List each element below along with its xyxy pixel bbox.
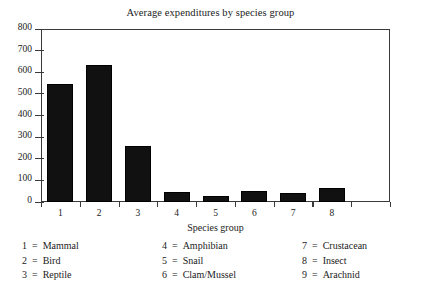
bar-chart-figure: Average expenditures by species group 01… [0,0,421,293]
y-axis-tick-mark [35,29,44,30]
chart-title: Average expenditures by species group [0,7,421,18]
y-axis-tick-label: 500 [18,87,32,97]
legend-item: 7=Crustacean [298,240,367,255]
legend-item-equals: = [307,269,323,280]
legend-item-label: Clam/Mussel [183,269,236,280]
legend-item: 6=Clam/Mussel [158,269,236,284]
x-axis-tick-label: 5 [196,208,236,218]
legend-item-equals: = [27,269,43,280]
legend-item-label: Reptile [43,269,72,280]
legend-column-3: 7=Crustacean8=Insect9=Arachnid [298,240,367,284]
legend-item-label: Crustacean [323,240,367,251]
x-axis-tick-label: 2 [79,208,119,218]
y-axis-tick-label: 700 [18,44,32,54]
legend-item-key: 9 [298,269,307,280]
x-axis-tick-mark [119,202,120,207]
legend-item-equals: = [27,255,43,266]
legend-item-key: 2 [18,255,27,266]
legend-item-label: Arachnid [323,269,360,280]
bar [319,188,345,202]
legend-item-label: Snail [183,255,204,266]
y-axis-tick-label: 200 [18,152,32,162]
x-axis-tick-label: 3 [118,208,158,218]
legend-item: 1=Mammal [18,240,79,255]
y-axis-tick-label: 800 [18,22,32,32]
legend-item-equals: = [167,255,183,266]
legend-item: 9=Arachnid [298,269,367,284]
y-axis-tick-label: 100 [18,173,32,183]
legend-item-equals: = [167,269,183,280]
bar [125,146,151,202]
y-axis-tick-mark [35,93,44,94]
legend-item-equals: = [307,255,323,266]
legend-item-key: 8 [298,255,307,266]
legend-item-key: 1 [18,240,27,251]
x-axis-tick-label: 7 [273,208,313,218]
legend-item: 5=Snail [158,255,236,270]
legend-item: 3=Reptile [18,269,79,284]
legend-item-equals: = [167,240,183,251]
x-axis-tick-mark [274,202,275,207]
legend-item-key: 7 [298,240,307,251]
legend-item-label: Amphibian [183,240,228,251]
y-axis-tick-mark [35,115,44,116]
bar [203,196,229,202]
legend-item-key: 5 [158,255,167,266]
y-axis-tick-label: 400 [18,109,32,119]
chart-legend: 1=Mammal2=Bird3=Reptile 4=Amphibian5=Sna… [0,240,421,288]
x-axis-tick-mark [196,202,197,207]
x-axis-tick-mark [312,202,313,207]
y-axis-tick-mark [35,137,44,138]
bar [47,84,73,202]
x-axis-tick-mark [235,202,236,207]
legend-column-1: 1=Mammal2=Bird3=Reptile [18,240,79,284]
x-axis-tick-mark [390,202,391,207]
legend-item-label: Bird [43,255,61,266]
y-axis-tick-mark [35,202,44,203]
legend-item: 4=Amphibian [158,240,236,255]
legend-item-equals: = [307,240,323,251]
legend-item-key: 4 [158,240,167,251]
legend-item: 2=Bird [18,255,79,270]
legend-item-label: Insect [323,255,347,266]
x-axis-tick-label: 6 [234,208,274,218]
y-axis-tick-label: 300 [18,130,32,140]
legend-item: 8=Insect [298,255,367,270]
legend-item-label: Mammal [43,240,79,251]
bar [280,193,306,202]
y-axis-tick-mark [35,158,44,159]
bar [241,191,267,202]
x-axis-tick-mark [41,202,42,207]
x-axis-tick-mark [351,202,352,207]
y-axis-tick-mark [35,72,44,73]
x-axis-tick-mark [80,202,81,207]
y-axis-tick-mark [35,180,44,181]
y-axis-tick-label: 600 [18,65,32,75]
bar [164,192,190,202]
x-axis-title: Species group [41,222,390,233]
legend-item-equals: = [27,240,43,251]
legend-item-key: 6 [158,269,167,280]
x-axis-tick-mark [157,202,158,207]
y-axis-tick-label: 0 [27,195,32,205]
x-axis-tick-label: 8 [312,208,352,218]
legend-item-key: 3 [18,269,27,280]
legend-column-2: 4=Amphibian5=Snail6=Clam/Mussel [158,240,236,284]
x-axis-tick-label: 1 [40,208,80,218]
x-axis-tick-label: 4 [157,208,197,218]
bar [86,65,112,202]
y-axis-tick-mark [35,50,44,51]
